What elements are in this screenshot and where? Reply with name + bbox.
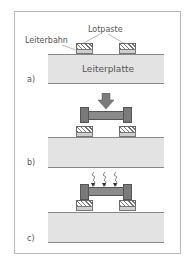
step-label-a: a) [27, 76, 35, 84]
component-body-c [88, 187, 124, 196]
circuit-board-c [48, 212, 164, 243]
step-label-b: b) [27, 159, 35, 167]
component-body-b [88, 111, 124, 120]
down-arrow-icon [98, 93, 114, 109]
component-terminal-right-c [123, 184, 132, 200]
heat-arrows-icon [88, 172, 122, 188]
component-terminal-right-b [123, 107, 132, 123]
trace-pad-left-c [76, 206, 93, 211]
circuit-board-label: Leiterplatte [82, 65, 134, 74]
circuit-board-b [48, 137, 164, 168]
trace-pad-right-c [119, 206, 136, 211]
step-label-c: c) [27, 235, 35, 243]
